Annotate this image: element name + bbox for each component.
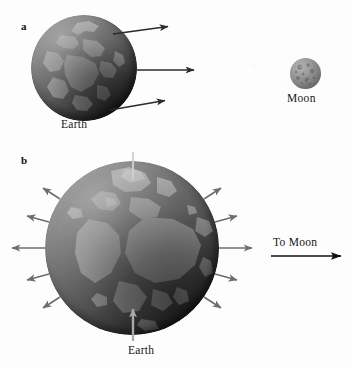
moon-globe [290,58,321,89]
earth-label-panel-b: Earth [128,345,154,357]
panel-a-letter: a [21,21,27,32]
tidal-force-figure: a [0,0,352,367]
moon-label: Moon [287,93,316,105]
earth-globe-panel-a [31,15,137,121]
to-moon-label: To Moon [273,237,317,249]
earth-globe-panel-b [45,161,219,335]
panel-b-letter: b [21,155,27,166]
earth-label-panel-a: Earth [61,119,87,131]
earth-rim-shading [31,15,137,121]
earth-rim-shading-b [45,161,219,335]
